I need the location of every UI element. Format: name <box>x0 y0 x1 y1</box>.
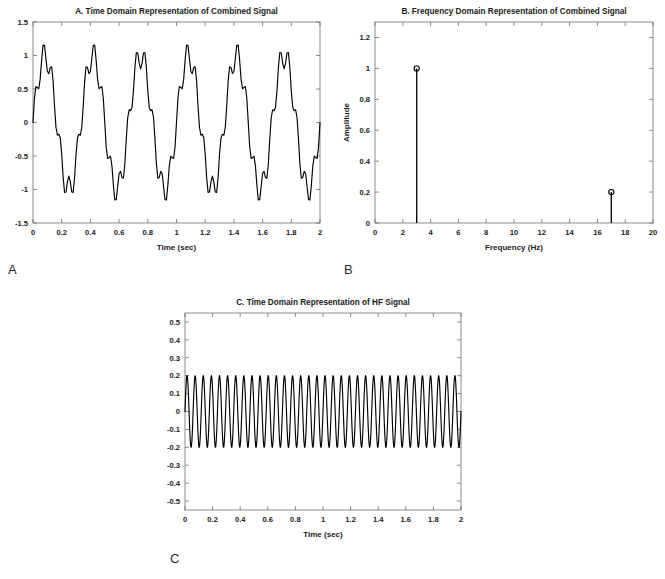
panel-a-plot: A. Time Domain Representation of Combine… <box>0 0 335 258</box>
x-tick-label: 0.6 <box>114 228 125 237</box>
panel-c-plot: C. Time Domain Representation of HF Sign… <box>140 285 490 550</box>
panel-a-time-domain-combined: A. Time Domain Representation of Combine… <box>0 0 335 258</box>
x-tick-label: 16 <box>593 228 601 237</box>
x-tick-label: 12 <box>538 228 546 237</box>
x-tick-label: 1.6 <box>401 515 412 524</box>
x-tick-label: 1.2 <box>200 228 211 237</box>
x-tick-label: 1 <box>174 228 179 237</box>
signal-waveform <box>33 45 320 200</box>
x-tick-label: 0.6 <box>263 515 274 524</box>
x-axis-label: Time (sec) <box>303 530 343 539</box>
x-tick-label: 2 <box>318 228 322 237</box>
x-tick-label: 0.8 <box>143 228 154 237</box>
x-tick-label: 18 <box>621 228 629 237</box>
x-tick-label: 8 <box>484 228 488 237</box>
panel-b-plot: B. Frequency Domain Representation of Co… <box>335 0 665 258</box>
panel-label-b: B <box>344 262 353 277</box>
y-tick-label: -0.4 <box>167 479 181 488</box>
y-tick-label: -1.5 <box>15 219 29 228</box>
y-tick-label: 0.4 <box>169 336 180 345</box>
y-tick-label: -0.5 <box>15 152 29 161</box>
y-tick-label: 0.2 <box>359 188 370 197</box>
y-tick-label: -1 <box>21 185 29 194</box>
x-tick-label: 1.4 <box>373 515 384 524</box>
y-tick-label: 1.5 <box>17 18 28 27</box>
x-tick-label: 0.4 <box>85 228 96 237</box>
x-tick-label: 20 <box>649 228 657 237</box>
y-tick-label: 0.6 <box>359 126 370 135</box>
y-tick-label: 0.8 <box>359 95 370 104</box>
x-tick-label: 6 <box>456 228 460 237</box>
panel-label-c: C <box>170 551 180 566</box>
x-axis-label: Frequency (Hz) <box>485 243 543 252</box>
x-tick-label: 4 <box>428 228 433 237</box>
x-tick-label: 1.8 <box>428 515 439 524</box>
x-tick-label: 0 <box>373 228 377 237</box>
y-tick-label: -0.2 <box>167 443 180 452</box>
signal-waveform <box>185 376 461 448</box>
plot-title: B. Frequency Domain Representation of Co… <box>401 7 626 16</box>
y-tick-label: 0.3 <box>169 354 180 363</box>
x-tick-label: 10 <box>510 228 518 237</box>
y-tick-label: -0.1 <box>167 425 181 434</box>
y-tick-label: 0.1 <box>169 389 180 398</box>
x-tick-label: 0.2 <box>56 228 67 237</box>
y-tick-label: 0 <box>176 407 180 416</box>
x-axis-label: Time (sec) <box>157 243 197 252</box>
x-tick-label: 1.8 <box>286 228 297 237</box>
y-tick-label: -0.5 <box>167 497 181 506</box>
x-tick-label: 1 <box>321 515 326 524</box>
x-tick-label: 1.6 <box>257 228 268 237</box>
x-tick-label: 0 <box>31 228 35 237</box>
y-tick-label: 1.2 <box>359 33 370 42</box>
plot-title: A. Time Domain Representation of Combine… <box>75 7 278 16</box>
x-tick-label: 0 <box>183 515 187 524</box>
panel-label-a: A <box>8 262 17 277</box>
panel-c-time-domain-hf: C. Time Domain Representation of HF Sign… <box>140 285 490 550</box>
y-tick-label: 0.2 <box>169 371 180 380</box>
y-tick-label: 1 <box>24 51 29 60</box>
y-tick-label: -0.3 <box>167 461 180 470</box>
x-tick-label: 0.4 <box>235 515 246 524</box>
y-tick-label: 1 <box>366 64 371 73</box>
y-tick-label: 0.5 <box>17 85 28 94</box>
y-axis-label: Amplitude <box>342 102 351 142</box>
x-tick-label: 1.2 <box>345 515 356 524</box>
x-tick-label: 0.2 <box>207 515 218 524</box>
x-tick-label: 1.4 <box>229 228 240 237</box>
plot-title: C. Time Domain Representation of HF Sign… <box>236 298 410 307</box>
y-tick-label: 0 <box>366 219 370 228</box>
panel-b-frequency-domain-combined: B. Frequency Domain Representation of Co… <box>335 0 665 258</box>
x-tick-label: 2 <box>459 515 463 524</box>
x-tick-label: 14 <box>565 228 574 237</box>
y-tick-label: 0 <box>24 118 28 127</box>
figure-canvas: A. Time Domain Representation of Combine… <box>0 0 665 579</box>
y-tick-label: 0.5 <box>169 318 180 327</box>
y-tick-label: 0.4 <box>359 157 370 166</box>
x-tick-label: 2 <box>401 228 405 237</box>
x-tick-label: 0.8 <box>290 515 301 524</box>
